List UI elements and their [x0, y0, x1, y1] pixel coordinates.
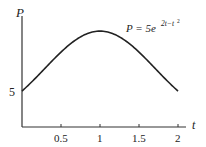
formula-annotation: P = 5e 2t−t 2	[125, 18, 180, 34]
x-axis-label: t	[192, 118, 196, 132]
svg-text:P = 5e: P = 5e	[125, 22, 156, 34]
curve-line	[22, 31, 178, 91]
chart: P t 5 0.5 1 1.5 2 P = 5e 2t−t 2	[0, 0, 206, 147]
y-axis-label: P	[15, 5, 24, 20]
x-tick-2: 2	[175, 132, 181, 144]
y-tick-5: 5	[9, 85, 15, 99]
svg-text:2: 2	[177, 18, 180, 24]
svg-text:2t−t: 2t−t	[161, 19, 175, 28]
x-tick-1: 1	[97, 132, 103, 144]
x-tick-1-5: 1.5	[132, 132, 146, 144]
x-tick-0-5: 0.5	[54, 132, 68, 144]
